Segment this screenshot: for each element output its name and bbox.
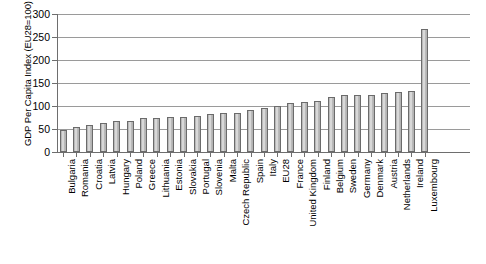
bar bbox=[140, 118, 147, 152]
bar bbox=[421, 29, 428, 152]
x-tick-label: Netherlands bbox=[402, 159, 411, 210]
bar bbox=[368, 95, 375, 153]
x-tick-mark bbox=[63, 153, 64, 157]
bar bbox=[395, 92, 402, 152]
x-tick-label: Estonia bbox=[174, 159, 183, 191]
x-tick-label: EU28 bbox=[281, 159, 290, 183]
bar bbox=[274, 106, 281, 152]
x-tick-mark bbox=[385, 153, 386, 157]
bar bbox=[86, 125, 93, 152]
x-tick-label: Germany bbox=[362, 159, 371, 198]
x-tick-label: Slovakia bbox=[188, 159, 197, 195]
caption-clipped bbox=[8, 257, 258, 264]
x-tick-label: Latvia bbox=[107, 159, 116, 184]
x-tick-mark bbox=[210, 153, 211, 157]
x-tick-mark bbox=[304, 153, 305, 157]
bar bbox=[220, 113, 227, 152]
x-tick-mark bbox=[224, 153, 225, 157]
bar bbox=[247, 110, 254, 152]
x-tick-label: Ireland bbox=[415, 159, 424, 188]
bar bbox=[341, 95, 348, 152]
bar bbox=[261, 108, 268, 152]
x-tick-mark bbox=[358, 153, 359, 157]
x-tick-mark bbox=[117, 153, 118, 157]
x-tick-mark bbox=[344, 153, 345, 157]
bar bbox=[60, 130, 67, 152]
y-axis-tick-labels: 050100150200250300 bbox=[0, 14, 50, 152]
x-tick-label: Czech Republic bbox=[241, 159, 250, 226]
x-tick-mark bbox=[143, 153, 144, 157]
x-tick-mark bbox=[103, 153, 104, 157]
x-tick-label: Greece bbox=[147, 159, 156, 190]
x-tick-label: Croatia bbox=[94, 159, 103, 190]
x-tick-label: Spain bbox=[255, 159, 264, 183]
x-tick-mark bbox=[411, 153, 412, 157]
x-tick-label: Finland bbox=[322, 159, 331, 190]
bar bbox=[153, 118, 160, 153]
x-tick-mark bbox=[170, 153, 171, 157]
y-tick-label: 0 bbox=[8, 147, 50, 157]
x-tick-label: Bulgaria bbox=[67, 159, 76, 194]
x-tick-label: Hungary bbox=[121, 159, 130, 195]
bar bbox=[194, 116, 201, 152]
x-tick-mark bbox=[398, 153, 399, 157]
bar bbox=[408, 91, 415, 152]
bar bbox=[234, 113, 241, 152]
y-tick-label: 200 bbox=[8, 55, 50, 65]
x-tick-label: Portugal bbox=[201, 159, 210, 194]
x-tick-label: Austria bbox=[389, 159, 398, 189]
y-tick-label: 300 bbox=[8, 9, 50, 19]
x-tick-mark bbox=[291, 153, 292, 157]
y-tick-label: 250 bbox=[8, 32, 50, 42]
x-tick-mark bbox=[318, 153, 319, 157]
x-tick-mark bbox=[197, 153, 198, 157]
bar bbox=[381, 93, 388, 152]
x-tick-mark bbox=[251, 153, 252, 157]
x-tick-label: France bbox=[295, 159, 304, 189]
x-tick-mark bbox=[130, 153, 131, 157]
x-tick-mark bbox=[277, 153, 278, 157]
x-tick-label: Belgium bbox=[335, 159, 344, 193]
x-tick-label: Malta bbox=[228, 159, 237, 182]
x-tick-label: Lithuania bbox=[161, 159, 170, 198]
y-tick-label: 50 bbox=[8, 124, 50, 134]
x-tick-mark bbox=[157, 153, 158, 157]
bar bbox=[314, 101, 321, 152]
bar bbox=[287, 103, 294, 152]
bar bbox=[354, 95, 361, 153]
x-tick-mark bbox=[237, 153, 238, 157]
x-tick-label: United Kingdom bbox=[308, 159, 317, 227]
x-tick-label: Poland bbox=[134, 159, 143, 189]
x-tick-label: Luxembourg bbox=[429, 159, 438, 212]
x-tick-label: Italy bbox=[268, 159, 277, 176]
x-tick-mark bbox=[184, 153, 185, 157]
bar bbox=[127, 121, 134, 152]
bar bbox=[100, 123, 107, 152]
bars-layer bbox=[57, 14, 470, 152]
y-tick-label: 100 bbox=[8, 101, 50, 111]
bar bbox=[207, 114, 214, 152]
x-tick-label: Sweden bbox=[348, 159, 357, 193]
bar bbox=[328, 97, 335, 152]
gdp-per-capita-bar-chart: GDP Per Capita Index (EU28=100) 05010015… bbox=[0, 0, 486, 264]
x-tick-mark bbox=[425, 153, 426, 157]
x-tick-mark bbox=[331, 153, 332, 157]
x-tick-label: Denmark bbox=[375, 159, 384, 198]
bar bbox=[180, 117, 187, 152]
bar bbox=[301, 102, 308, 152]
y-tick-label: 150 bbox=[8, 78, 50, 88]
x-tick-label: Slovenia bbox=[214, 159, 223, 195]
bar bbox=[73, 127, 80, 152]
x-tick-label: Romania bbox=[80, 159, 89, 197]
x-tick-mark bbox=[264, 153, 265, 157]
x-tick-mark bbox=[76, 153, 77, 157]
x-tick-mark bbox=[371, 153, 372, 157]
bar bbox=[113, 121, 120, 152]
x-tick-mark bbox=[90, 153, 91, 157]
bar bbox=[167, 117, 174, 152]
